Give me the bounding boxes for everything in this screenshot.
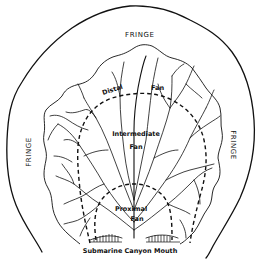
canyon-mouth-label: Submarine Canyon Mouth [83,247,178,255]
submarine-fan-diagram: FRINGE FRINGE FRINGE Distal Fan Intermed… [0,0,259,264]
fringe-label-right: FRINGE [229,130,237,160]
proximal-label: Proximal [115,205,147,213]
distal-fan-label: Fan [151,84,164,92]
proximal-fan-label: Fan [130,215,143,223]
intermediate-label: Intermediate [112,130,160,138]
fringe-label-left: FRINGE [25,137,33,167]
intermediate-fan-label: Fan [129,143,142,151]
fringe-label-top: FRINGE [125,31,155,39]
